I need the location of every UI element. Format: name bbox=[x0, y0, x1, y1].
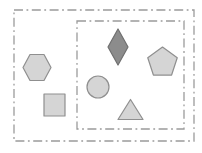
shapes-diagram bbox=[0, 0, 202, 153]
square-shape bbox=[44, 94, 65, 116]
diagram-canvas bbox=[0, 0, 202, 153]
hexagon-shape bbox=[23, 55, 51, 81]
circle-shape bbox=[87, 76, 109, 98]
pentagon-shape bbox=[148, 47, 177, 75]
triangle-shape bbox=[118, 100, 143, 120]
diamond-shape bbox=[108, 29, 128, 65]
